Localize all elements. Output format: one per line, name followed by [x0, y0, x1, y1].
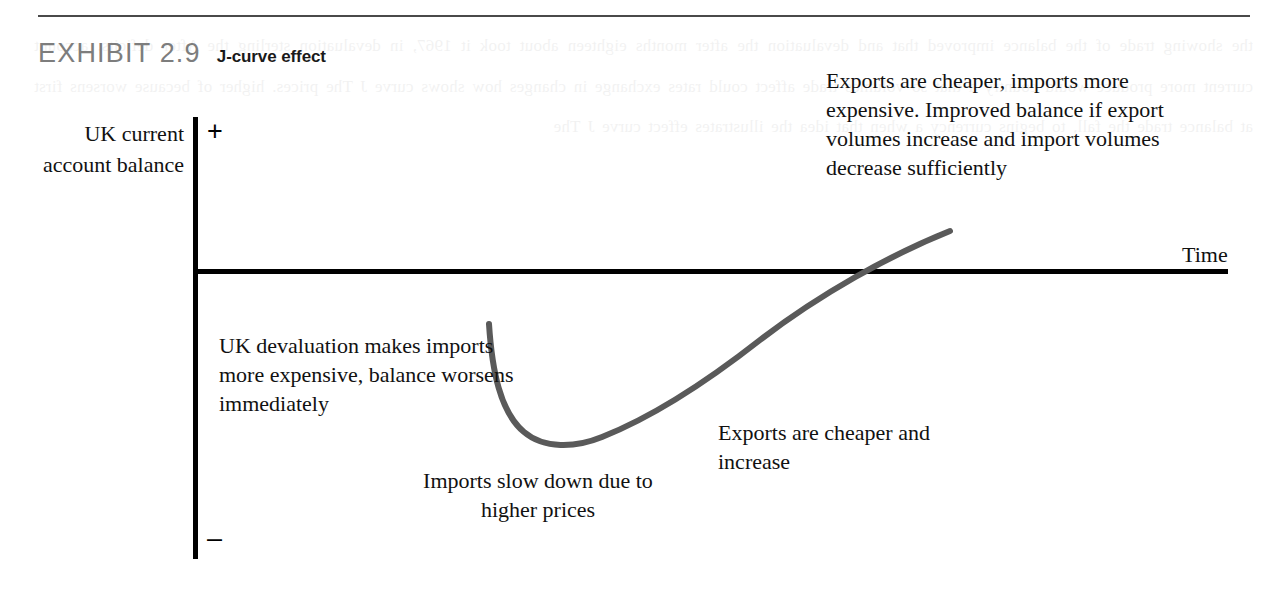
annotation-right-middle: Exports are cheaper and increase [718, 418, 988, 476]
j-curve-chart: UK current account balance + – Time Expo… [0, 0, 1287, 599]
annotation-top-right: Exports are cheaper, imports more expens… [826, 66, 1206, 182]
annotation-bottom-center: Imports slow down due to higher prices [410, 466, 666, 524]
annotation-left: UK devaluation makes imports more expens… [219, 331, 519, 418]
